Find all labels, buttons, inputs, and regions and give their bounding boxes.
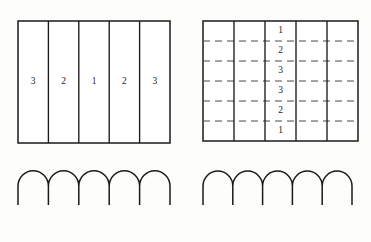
panel-bottom-right-arches: [203, 171, 352, 205]
panel-top-right-dashed-grid: 123321: [203, 21, 358, 141]
top-right-labels-item: 1: [278, 25, 283, 35]
top-left-labels-item: 1: [92, 76, 97, 86]
bottom-right-arch-row: [203, 171, 352, 205]
bottom-left-arch-row: [18, 171, 170, 205]
figure-root: 32123 123321: [0, 0, 371, 242]
top-left-labels-item: 3: [152, 76, 157, 86]
top-left-labels-item: 2: [122, 76, 127, 86]
top-right-labels-item: 2: [278, 45, 283, 55]
figure-canvas: 32123 123321: [0, 0, 371, 242]
panel-bottom-left-arches: [18, 171, 170, 205]
panel-top-left-striped-rectangle: 32123: [18, 21, 170, 143]
top-right-labels-item: 3: [278, 65, 283, 75]
top-right-labels-item: 2: [278, 105, 283, 115]
top-left-labels-item: 3: [31, 76, 36, 86]
top-right-labels-item: 1: [278, 125, 283, 135]
top-left-labels-item: 2: [61, 76, 66, 86]
top-right-labels-item: 3: [278, 85, 283, 95]
